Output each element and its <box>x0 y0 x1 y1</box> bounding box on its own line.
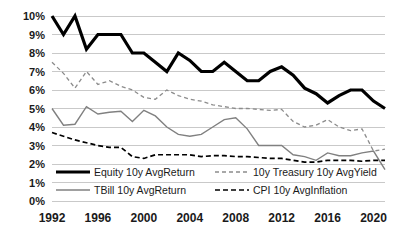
y-axis-tick-labels: 0%1%2%3%4%5%6%7%8%9%10% <box>23 10 45 207</box>
x-axis-tick-label: 1992 <box>39 211 66 225</box>
x-axis-tick-label: 2016 <box>314 211 341 225</box>
x-axis-tick-label: 2008 <box>222 211 249 225</box>
legend-label: TBill 10y AvgReturn <box>94 184 186 196</box>
x-axis-tick-labels: 19921996200020042008201220162020 <box>39 211 388 225</box>
x-axis-tick-label: 2000 <box>131 211 158 225</box>
series-line <box>52 16 385 109</box>
series-line <box>52 62 385 151</box>
y-axis-tick-label: 6% <box>29 84 45 96</box>
y-axis-tick-label: 0% <box>29 195 45 207</box>
y-axis-tick-label: 8% <box>29 47 45 59</box>
legend-label: 10y Treasury 10y AvgYield <box>253 166 377 178</box>
x-axis-tick-label: 2004 <box>176 211 203 225</box>
x-axis-tick-label: 1996 <box>85 211 112 225</box>
y-axis-tick-label: 5% <box>29 103 45 115</box>
y-axis-tick-label: 3% <box>29 140 45 152</box>
chart-container: 0%1%2%3%4%5%6%7%8%9%10% 1992199620002004… <box>0 0 399 236</box>
legend-label: CPI 10y AvgInflation <box>253 184 348 196</box>
legend-label: Equity 10y AvgReturn <box>94 166 195 178</box>
line-chart: 0%1%2%3%4%5%6%7%8%9%10% 1992199620002004… <box>0 0 399 236</box>
chart-legend: Equity 10y AvgReturn10y Treasury 10y Avg… <box>56 166 377 196</box>
x-axis-tick-label: 2012 <box>268 211 295 225</box>
y-axis-tick-label: 9% <box>29 29 45 41</box>
y-axis-tick-label: 1% <box>29 177 45 189</box>
series-line <box>52 133 385 163</box>
data-series-group <box>52 16 385 170</box>
y-axis-tick-label: 2% <box>29 158 45 170</box>
chart-svg: 0%1%2%3%4%5%6%7%8%9%10% 1992199620002004… <box>0 0 399 236</box>
y-axis-tick-label: 4% <box>29 121 45 133</box>
y-axis-tick-label: 10% <box>23 10 45 22</box>
x-axis-tick-label: 2020 <box>360 211 387 225</box>
y-axis-tick-label: 7% <box>29 66 45 78</box>
